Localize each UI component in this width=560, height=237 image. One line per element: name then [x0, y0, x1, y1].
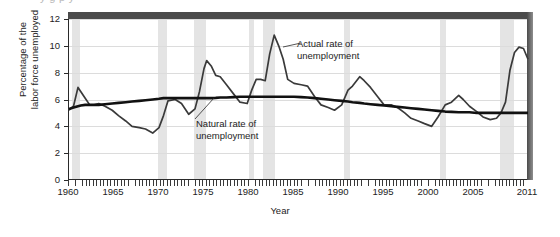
x-tick-label: 2011: [507, 186, 547, 197]
x-tick-label: 1990: [318, 186, 358, 197]
y-axis-title-line1: Percentage of the: [17, 22, 28, 97]
annotation-natural-rate: Natural rate of unemployment: [196, 118, 258, 141]
cropped-page-text-remnant: y g p y: [40, 0, 75, 3]
x-tick-label: 2005: [453, 186, 493, 197]
x-tick-label: 1970: [138, 186, 178, 197]
x-axis-title: Year: [0, 205, 560, 216]
y-tick-mark: [64, 73, 69, 74]
y-tick-label: 0: [34, 174, 60, 185]
x-tick-label: 1975: [183, 186, 223, 197]
y-tick-mark: [64, 19, 69, 20]
x-tick-label: 1985: [273, 186, 313, 197]
y-tick-mark: [64, 100, 69, 101]
annotation-actual-rate: Actual rate of unemployment: [297, 38, 359, 61]
y-tick-label: 4: [34, 120, 60, 131]
leader-line-natural: [195, 98, 214, 119]
y-tick-label: 2: [34, 147, 60, 158]
annotation-natural-line2: unemployment: [196, 130, 258, 141]
annotation-natural-line1: Natural rate of: [196, 118, 256, 129]
x-tick-label: 1995: [363, 186, 403, 197]
y-tick-label: 10: [34, 40, 60, 51]
annotation-actual-line2: unemployment: [297, 50, 359, 61]
x-tick-label: 1980: [228, 186, 268, 197]
y-tick-label: 6: [34, 94, 60, 105]
x-tick-label: 1965: [93, 186, 133, 197]
x-tick-label: 2000: [408, 186, 448, 197]
y-tick-label: 8: [34, 67, 60, 78]
figure-top-border-band: [68, 12, 533, 19]
y-tick-label: 12: [34, 13, 60, 24]
y-tick-mark: [64, 153, 69, 154]
x-tick-label: 1960: [48, 186, 88, 197]
y-tick-mark: [64, 46, 69, 47]
annotation-actual-line1: Actual rate of: [297, 38, 353, 49]
y-tick-mark: [64, 126, 69, 127]
